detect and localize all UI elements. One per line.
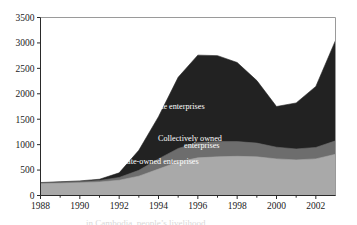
- x-tick-label: 2000: [267, 201, 286, 211]
- y-tick-label: 500: [20, 165, 35, 175]
- y-tick-label: 3000: [16, 38, 35, 48]
- series-label-collective-line2: enterprises: [184, 141, 219, 150]
- y-tick-label: 2500: [16, 64, 35, 74]
- x-axis-ticks: 19881990199219941996199820002002: [31, 196, 326, 211]
- x-tick-label: 1996: [188, 201, 207, 211]
- chart-container: 0500100015002000250030003500 19881990199…: [0, 0, 357, 225]
- y-tick-label: 1000: [16, 140, 35, 150]
- x-tick-label: 1988: [31, 201, 50, 211]
- y-tick-label: 2000: [16, 89, 35, 99]
- x-tick-label: 1992: [110, 201, 129, 211]
- caption-text: in Cambodia, people’s livelihood: [86, 219, 205, 225]
- series-label-state: State-owned enterprises: [120, 157, 198, 166]
- x-tick-label: 1994: [149, 201, 168, 211]
- y-axis-ticks: 0500100015002000250030003500: [16, 13, 41, 201]
- x-tick-label: 1990: [70, 201, 89, 211]
- y-tick-label: 3500: [16, 13, 35, 23]
- cropped-caption-strip: in Cambodia, people’s livelihood: [0, 219, 357, 225]
- series-label-private: Private enterprises: [144, 102, 205, 111]
- x-tick-label: 2002: [306, 201, 325, 211]
- x-tick-label: 1998: [228, 201, 247, 211]
- stacked-area-chart: 0500100015002000250030003500 19881990199…: [0, 0, 357, 225]
- y-tick-label: 1500: [16, 115, 35, 125]
- y-tick-label: 0: [30, 191, 35, 201]
